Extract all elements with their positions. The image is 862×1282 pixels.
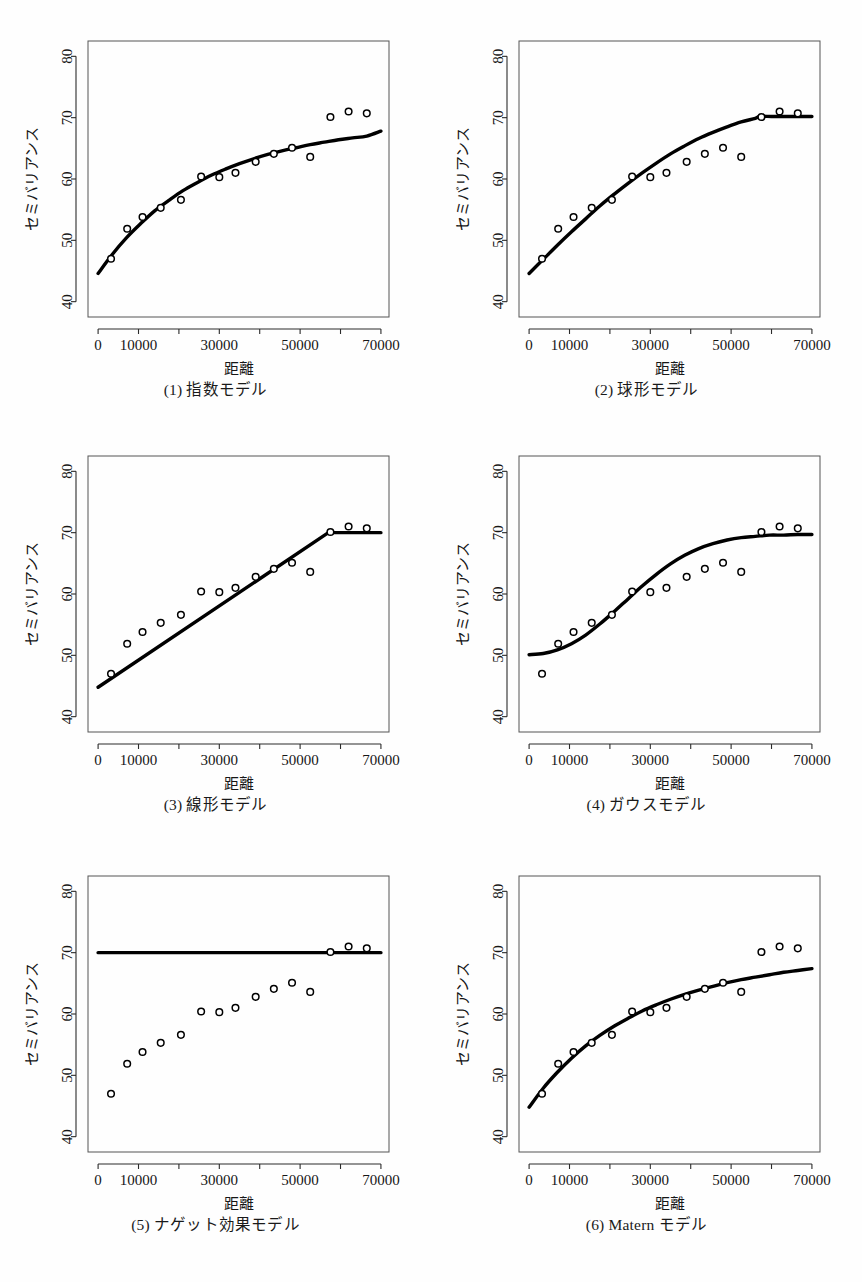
panel-2: 4050607080セミバリアンス010000300005000070000距離… [431, 5, 862, 432]
y-tick-label-60: 60 [490, 587, 506, 602]
data-point [345, 108, 352, 115]
y-tick-label-50: 50 [59, 1068, 75, 1083]
y-tick-label-70: 70 [490, 945, 506, 960]
x-tick-label-0: 0 [525, 1172, 533, 1188]
data-point [327, 949, 334, 956]
x-tick-label-10000: 10000 [551, 752, 589, 768]
panel-grid: 4050607080セミバリアンス010000300005000070000距離… [0, 0, 862, 1282]
data-point [327, 529, 334, 536]
y-tick-label-50: 50 [59, 648, 75, 663]
plot-frame [88, 876, 389, 1152]
data-point [629, 1008, 636, 1015]
data-point [738, 569, 745, 576]
data-point [570, 1049, 577, 1056]
data-point [776, 108, 783, 115]
data-point [108, 255, 115, 262]
data-point [647, 589, 654, 596]
data-point [683, 574, 690, 581]
data-point [198, 173, 205, 180]
data-point [124, 225, 131, 232]
data-point [216, 589, 223, 596]
x-tick-label-70000: 70000 [362, 752, 400, 768]
x-tick-label-10000: 10000 [120, 1172, 158, 1188]
panel-caption-3: (3) 線形モデル [0, 792, 431, 814]
data-point [178, 612, 185, 619]
x-tick-label-50000: 50000 [712, 337, 750, 353]
data-point [555, 1060, 562, 1067]
data-point [683, 159, 690, 166]
panel-caption-1: (1) 指数モデル [0, 377, 431, 399]
x-axis-title: 距離 [655, 775, 685, 790]
model-fit-curve [98, 533, 381, 688]
x-tick-label-0: 0 [525, 752, 533, 768]
variogram-plot-4: 4050607080セミバリアンス010000300005000070000距離 [431, 420, 862, 790]
panel-3: 4050607080セミバリアンス010000300005000070000距離… [0, 420, 431, 847]
data-point [232, 170, 239, 177]
data-point [216, 174, 223, 181]
data-point [555, 225, 562, 232]
x-tick-label-30000: 30000 [632, 1172, 670, 1188]
data-point [289, 979, 296, 986]
y-tick-label-60: 60 [59, 587, 75, 602]
y-tick-label-70: 70 [59, 945, 75, 960]
variogram-plot-6: 4050607080セミバリアンス010000300005000070000距離 [431, 840, 862, 1210]
data-point [629, 173, 636, 180]
x-tick-label-50000: 50000 [281, 337, 319, 353]
data-point [794, 525, 801, 532]
data-point [794, 110, 801, 117]
data-point [139, 214, 146, 221]
data-point [178, 1032, 185, 1039]
data-point [702, 566, 709, 573]
data-point [307, 989, 314, 996]
y-tick-label-80: 80 [490, 884, 506, 899]
y-tick-label-80: 80 [490, 49, 506, 64]
x-axis-title: 距離 [224, 360, 254, 375]
model-fit-curve [529, 534, 812, 654]
data-point [232, 585, 239, 592]
data-point [629, 588, 636, 595]
x-axis-title: 距離 [655, 360, 685, 375]
y-tick-label-60: 60 [59, 172, 75, 187]
panel-6: 4050607080セミバリアンス010000300005000070000距離… [431, 840, 862, 1267]
data-point [345, 523, 352, 530]
data-point [758, 114, 765, 121]
data-point [289, 559, 296, 566]
y-tick-label-50: 50 [490, 1068, 506, 1083]
data-point [702, 151, 709, 158]
data-point [252, 994, 259, 1001]
data-point [570, 629, 577, 636]
data-point [647, 174, 654, 181]
data-point [252, 574, 259, 581]
y-tick-label-80: 80 [59, 884, 75, 899]
data-point [794, 945, 801, 952]
x-tick-label-50000: 50000 [712, 1172, 750, 1188]
data-point [139, 1049, 146, 1056]
data-point [363, 945, 370, 952]
x-tick-label-50000: 50000 [281, 752, 319, 768]
y-axis-title: セミバリアンス [24, 127, 40, 231]
data-point [139, 629, 146, 636]
data-point [363, 525, 370, 532]
data-point [720, 559, 727, 566]
data-point [588, 205, 595, 212]
y-tick-label-40: 40 [59, 1129, 75, 1144]
x-tick-label-70000: 70000 [793, 1172, 831, 1188]
data-point [157, 620, 164, 627]
data-point [232, 1005, 239, 1012]
data-point-group [108, 943, 370, 1097]
y-tick-label-50: 50 [490, 233, 506, 248]
y-tick-label-50: 50 [59, 233, 75, 248]
y-tick-label-60: 60 [59, 1007, 75, 1022]
y-tick-label-60: 60 [490, 1007, 506, 1022]
data-point [609, 612, 616, 619]
plot-frame [519, 456, 820, 732]
data-point [738, 154, 745, 161]
x-tick-label-10000: 10000 [120, 337, 158, 353]
data-point [738, 989, 745, 996]
panel-1: 4050607080セミバリアンス010000300005000070000距離… [0, 5, 431, 432]
plot-area-6: 4050607080セミバリアンス010000300005000070000距離 [431, 840, 862, 1210]
x-tick-label-70000: 70000 [793, 337, 831, 353]
data-point [271, 151, 278, 158]
x-tick-label-10000: 10000 [120, 752, 158, 768]
data-point [271, 986, 278, 993]
